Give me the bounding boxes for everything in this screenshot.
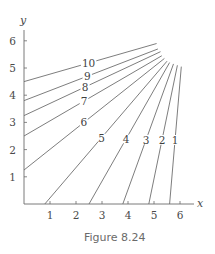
level-curve-5	[105, 61, 167, 134]
level-curve-1	[175, 67, 181, 135]
curve-label-7: 7	[81, 95, 88, 107]
level-curve-6	[24, 126, 80, 170]
y-tick-label: 5	[9, 62, 16, 74]
level-curves	[24, 44, 181, 204]
curve-label-10: 10	[82, 57, 95, 69]
level-curve-8	[24, 89, 81, 115]
curve-label-4: 4	[123, 133, 130, 145]
x-tick-label: 6	[177, 209, 184, 221]
figure-canvas: x y 123456123456 10987654321 Figure 8.24	[0, 0, 215, 254]
level-curve-7	[88, 56, 161, 99]
y-axis: y	[19, 14, 27, 204]
level-curve-10	[24, 65, 81, 81]
curve-label-6: 6	[81, 116, 88, 128]
axis-ticks: 123456123456	[9, 35, 183, 221]
x-tick-label: 4	[125, 209, 132, 221]
curve-label-3: 3	[143, 134, 150, 146]
level-curve-3	[123, 144, 145, 204]
curve-label-5: 5	[98, 132, 105, 144]
level-curve-8	[90, 52, 161, 85]
y-tick-label: 4	[9, 89, 16, 101]
y-axis-label: y	[19, 14, 27, 27]
figure-caption: Figure 8.24	[84, 231, 146, 244]
y-tick-label: 3	[9, 116, 16, 128]
curve-label-8: 8	[82, 81, 89, 93]
y-tick-label: 6	[9, 35, 16, 47]
level-curve-2	[163, 65, 177, 135]
x-tick-label: 1	[47, 209, 54, 221]
level-curve-9	[24, 78, 83, 101]
curve-label-1: 1	[172, 134, 179, 146]
level-curve-1	[170, 145, 175, 204]
level-curve-7	[24, 104, 80, 136]
y-tick-label: 1	[9, 171, 16, 183]
curve-label-2: 2	[159, 134, 166, 146]
level-curve-4	[89, 143, 124, 204]
x-axis-label: x	[197, 197, 204, 210]
level-curve-2	[149, 145, 161, 204]
x-tick-label: 3	[99, 209, 106, 221]
level-curve-5	[45, 141, 99, 204]
x-tick-label: 2	[73, 209, 80, 221]
x-tick-label: 5	[151, 209, 158, 221]
y-tick-label: 2	[9, 144, 16, 156]
level-curve-3	[148, 64, 174, 135]
